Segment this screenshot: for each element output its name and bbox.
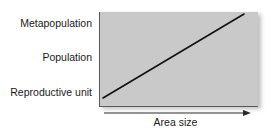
chart-overlay [0, 0, 273, 133]
trend-line [103, 14, 244, 98]
x-axis-label: Area size [0, 116, 273, 128]
